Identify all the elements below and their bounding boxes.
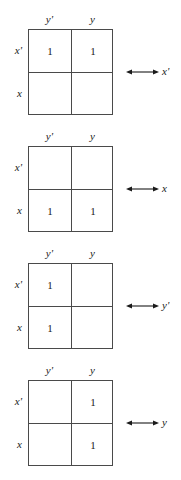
row-label-x: x xyxy=(0,87,22,100)
kmap-grid: 1 1 xyxy=(28,380,113,466)
kmap-cell-top-right xyxy=(72,264,114,306)
column-header-y-prime: y' xyxy=(28,246,71,260)
double-headed-arrow-icon xyxy=(126,418,159,428)
kmap-cell-bottom-left xyxy=(29,73,71,115)
region-arrow-group: y' xyxy=(126,298,181,314)
kmap-block-2: y' y x' x 1 1 x xyxy=(0,129,181,234)
kmap-block-3: y' y x' x 1 1 y' xyxy=(0,246,181,351)
column-header-y-prime: y' xyxy=(28,12,71,26)
column-header-y: y xyxy=(71,363,114,377)
row-labels: x' x xyxy=(0,380,27,466)
kmap-cell-bottom-right: 1 xyxy=(72,190,114,232)
kmap-cell-bottom-left xyxy=(29,424,71,466)
region-arrow-group: x xyxy=(126,181,181,197)
kmap-cell-top-left: 1 xyxy=(29,30,71,72)
kmap-cell-top-left xyxy=(29,381,71,423)
row-label-x-prime: x' xyxy=(0,278,22,291)
row-label-x: x xyxy=(0,321,22,334)
kmap-grid: 1 1 xyxy=(28,146,113,232)
column-headers: y' y xyxy=(28,246,114,262)
region-arrow-label: y xyxy=(162,415,167,429)
column-header-y-prime: y' xyxy=(28,363,71,377)
kmap-cell-top-right: 1 xyxy=(72,381,114,423)
row-label-x: x xyxy=(0,204,22,217)
kmap-cell-bottom-right xyxy=(72,73,114,115)
kmap-cell-bottom-left: 1 xyxy=(29,307,71,349)
region-arrow-label: x xyxy=(162,181,167,195)
kmap-cell-top-right: 1 xyxy=(72,30,114,72)
row-labels: x' x xyxy=(0,146,27,232)
kmap-grid: 1 1 xyxy=(28,29,113,115)
row-labels: x' x xyxy=(0,263,27,349)
column-headers: y' y xyxy=(28,363,114,379)
column-header-y: y xyxy=(71,12,114,26)
column-header-y: y xyxy=(71,246,114,260)
kmap-cell-top-left: 1 xyxy=(29,264,71,306)
kmap-cell-top-right xyxy=(72,147,114,189)
row-label-x-prime: x' xyxy=(0,161,22,174)
column-header-y-prime: y' xyxy=(28,129,71,143)
region-arrow-label: x' xyxy=(162,64,169,78)
double-headed-arrow-icon xyxy=(126,67,159,77)
kmap-block-4: y' y x' x 1 1 y xyxy=(0,363,181,468)
column-header-y: y xyxy=(71,129,114,143)
region-arrow-label: y' xyxy=(162,298,169,312)
row-label-x-prime: x' xyxy=(0,44,22,57)
column-headers: y' y xyxy=(28,12,114,28)
kmap-grid: 1 1 xyxy=(28,263,113,349)
double-headed-arrow-icon xyxy=(126,184,159,194)
double-headed-arrow-icon xyxy=(126,301,159,311)
row-label-x: x xyxy=(0,438,22,451)
kmap-block-1: y' y x' x 1 1 x' xyxy=(0,12,181,117)
kmap-cell-bottom-left: 1 xyxy=(29,190,71,232)
kmap-cell-bottom-right xyxy=(72,307,114,349)
row-label-x-prime: x' xyxy=(0,395,22,408)
region-arrow-group: y xyxy=(126,415,181,431)
row-labels: x' x xyxy=(0,29,27,115)
kmap-cell-top-left xyxy=(29,147,71,189)
region-arrow-group: x' xyxy=(126,64,181,80)
kmap-cell-bottom-right: 1 xyxy=(72,424,114,466)
column-headers: y' y xyxy=(28,129,114,145)
